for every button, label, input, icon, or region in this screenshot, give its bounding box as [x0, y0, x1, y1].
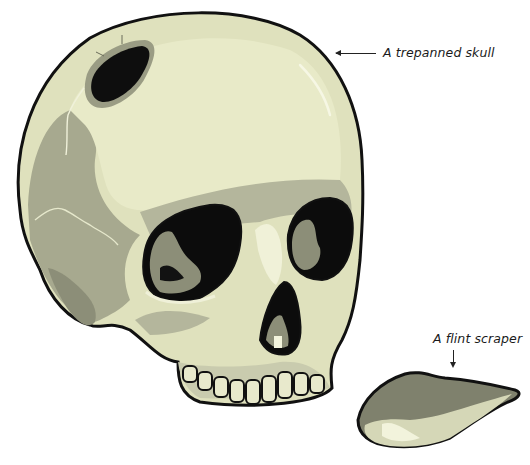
arrow-to-flint	[453, 350, 454, 364]
tooth	[214, 377, 228, 397]
tooth	[246, 380, 260, 404]
flint-scraper	[358, 373, 519, 447]
tooth	[262, 376, 276, 402]
tooth	[183, 366, 197, 382]
tooth	[278, 372, 292, 398]
nasal-spine	[274, 336, 282, 348]
arrow-to-skull	[336, 53, 376, 54]
trepanned-skull	[18, 13, 363, 405]
tooth	[198, 372, 212, 390]
tooth	[310, 375, 324, 393]
flint-label: A flint scraper	[433, 331, 522, 346]
tooth	[294, 373, 308, 395]
skull-label: A trepanned skull	[383, 45, 495, 60]
skull-illustration	[0, 0, 530, 465]
tooth	[230, 380, 244, 402]
